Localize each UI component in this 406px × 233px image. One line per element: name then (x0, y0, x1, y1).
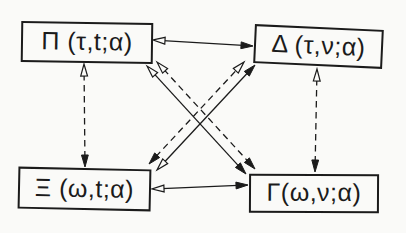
node-pi-box: Π (τ,t;α) (21, 21, 154, 64)
edge-pi-gamma-diag-solid (154, 73, 239, 166)
xi-gamma-horizontal-open-arrowhead (152, 185, 164, 192)
edge-pi-xi-vertical (84, 74, 85, 157)
diagram-figure: Π (τ,t;α) Δ (τ,ν;α) Ξ (ω,t;α) Γ(ω,ν;α) (0, 0, 406, 233)
node-delta-label: Δ (τ,ν;α) (271, 31, 366, 62)
node-delta-box: Δ (τ,ν;α) (253, 24, 384, 69)
node-gamma-box: Γ(ω,ν;α) (249, 174, 379, 214)
delta-gamma-vertical-filled-arrowhead (312, 160, 319, 172)
pi-delta-horizontal-open-arrowhead (153, 37, 165, 44)
delta-gamma-vertical-open-arrowhead (313, 69, 320, 81)
pi-xi-vertical-open-arrowhead (81, 64, 88, 76)
edge-pi-delta-horizontal (163, 41, 243, 46)
edge-xi-delta-diag-solid (164, 72, 248, 162)
edge-xi-delta-diag-dashed (156, 69, 237, 156)
edge-xi-gamma-horizontal (162, 185, 238, 188)
node-gamma-label: Γ(ω,ν;α) (267, 180, 362, 207)
edge-delta-gamma-vertical (315, 79, 317, 162)
node-xi-box: Ξ (ω,t;α) (18, 167, 152, 212)
xi-gamma-horizontal-filled-arrowhead (236, 182, 248, 189)
node-pi-label: Π (τ,t;α) (41, 28, 133, 56)
node-xi-label: Ξ (ω,t;α) (35, 174, 135, 203)
pi-xi-vertical-filled-arrowhead (81, 155, 88, 167)
edge-pi-gamma-diag-dashed (164, 69, 248, 161)
pi-delta-horizontal-filled-arrowhead (241, 42, 253, 49)
